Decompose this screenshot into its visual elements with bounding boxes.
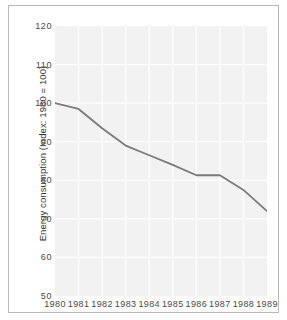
y-axis-tick-label: 60 — [12, 252, 52, 262]
x-axis-tick-labels: 1980198119821983198419851986198719881989 — [55, 299, 267, 315]
y-axis-tick-labels: 5060708090100110120 — [9, 26, 52, 296]
y-axis-tick-label: 120 — [12, 21, 52, 31]
plot-area — [55, 26, 267, 296]
y-axis-tick-label: 100 — [12, 98, 52, 108]
series-line — [55, 103, 267, 211]
y-axis-tick-label: 70 — [12, 214, 52, 224]
y-axis-tick-label: 90 — [12, 137, 52, 147]
y-axis-tick-label: 80 — [12, 175, 52, 185]
chart-figure: Energy consumption (Index: 1980 = 100) 5… — [0, 0, 287, 320]
x-axis-tick-label: 1989 — [247, 299, 287, 309]
data-line-series — [55, 26, 267, 296]
figure-frame: Energy consumption (Index: 1980 = 100) 5… — [8, 5, 279, 313]
y-axis-tick-label: 110 — [12, 60, 52, 70]
